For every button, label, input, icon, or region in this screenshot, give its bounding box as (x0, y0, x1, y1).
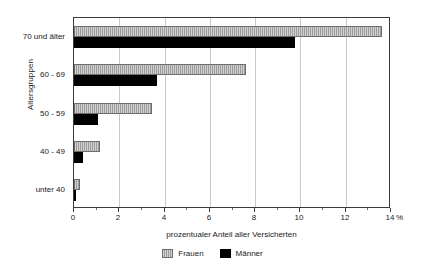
bar-frauen-60---69 (74, 64, 246, 75)
x-tick-mark (299, 208, 300, 212)
legend-label: Frauen (178, 249, 203, 258)
chart-legend: FrauenMänner (0, 249, 425, 258)
y-tick-label: 40 - 49 (40, 146, 65, 155)
x-tick-minor (96, 208, 97, 210)
legend-item-männer: Männer (220, 249, 263, 258)
x-tick-minor (277, 208, 278, 210)
bar-maenner-50---59 (74, 114, 98, 125)
y-tick-label: 60 - 69 (40, 70, 65, 79)
x-tick-label: 10 (295, 213, 304, 222)
bar-maenner-60---69 (74, 75, 157, 86)
x-tick-label: 8 (252, 213, 256, 222)
x-tick-mark (164, 208, 165, 212)
x-tick-mark (118, 208, 119, 212)
bars-layer (74, 18, 389, 207)
y-tick-label: unter 40 (36, 184, 65, 193)
x-axis-title: prozentualer Anteil aller Versicherten (73, 230, 390, 239)
x-tick-mark (254, 208, 255, 212)
bar-frauen-70-und-älter (74, 26, 382, 37)
y-tick-label: 70 und älter (23, 32, 65, 41)
x-tick-label: 12 (341, 213, 350, 222)
x-tick-mark (73, 208, 74, 212)
bar-frauen-unter-40 (74, 179, 80, 190)
x-tick-label: 4 (162, 213, 166, 222)
x-tick-label: 0 (71, 213, 75, 222)
black-swatch (220, 249, 231, 258)
gray-hatched-swatch (162, 249, 173, 258)
x-axis-ticks: 02468101214 (73, 208, 390, 228)
x-tick-minor (232, 208, 233, 210)
bar-maenner-unter-40 (74, 190, 76, 201)
x-tick-label: 14 (386, 213, 395, 222)
legend-item-frauen: Frauen (162, 249, 203, 258)
plot-area (73, 17, 390, 208)
x-tick-minor (322, 208, 323, 210)
x-tick-label: 2 (116, 213, 120, 222)
x-tick-mark (345, 208, 346, 212)
x-tick-label: 6 (207, 213, 211, 222)
bar-maenner-40---49 (74, 152, 83, 163)
bar-frauen-50---59 (74, 103, 152, 114)
y-tick-label: 50 - 59 (40, 108, 65, 117)
x-tick-mark (209, 208, 210, 212)
bar-maenner-70-und-älter (74, 37, 295, 48)
legend-label: Männer (236, 249, 263, 258)
bar-chart: Altersgruppen unter 4040 - 4950 - 5960 -… (0, 0, 425, 272)
bar-frauen-40---49 (74, 141, 100, 152)
x-tick-minor (186, 208, 187, 210)
x-axis-unit: % (396, 213, 403, 222)
x-tick-minor (141, 208, 142, 210)
x-tick-mark (390, 208, 391, 212)
y-axis-tick-labels: unter 4040 - 4950 - 5960 - 6970 und älte… (0, 17, 69, 208)
x-tick-minor (367, 208, 368, 210)
